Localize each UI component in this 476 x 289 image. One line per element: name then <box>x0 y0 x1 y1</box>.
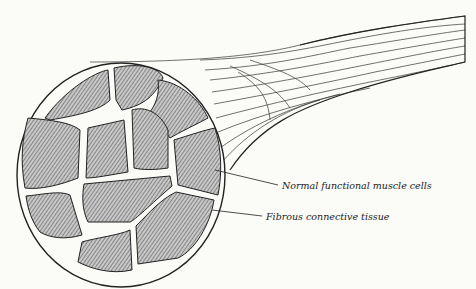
anatomical-illustration: Normal functional muscle cells Fibrous c… <box>0 0 476 289</box>
label-connective-tissue: Fibrous connective tissue <box>266 211 389 222</box>
label-muscle-cells: Normal functional muscle cells <box>282 180 432 191</box>
muscle-drawing <box>0 0 476 289</box>
